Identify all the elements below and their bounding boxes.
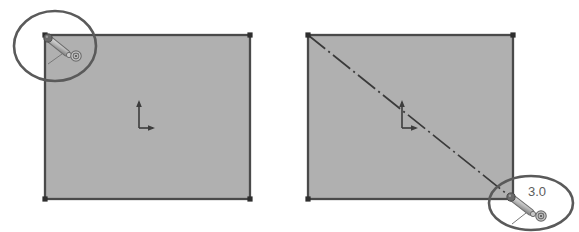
sketch-vertex-bottom-left[interactable]	[305, 196, 310, 201]
sketch-vertex-bottom-right[interactable]	[247, 196, 252, 201]
sketch-vertex-top-right[interactable]	[247, 32, 252, 37]
pin-head-highlight	[509, 195, 511, 197]
pin-tip	[530, 211, 535, 216]
sketch-vertex-bottom-left[interactable]	[42, 196, 47, 201]
coincident-constraint-icon	[536, 211, 546, 221]
pin-head-highlight	[46, 36, 48, 38]
coincident-constraint-icon	[71, 51, 81, 61]
pin-head-sphere	[507, 193, 515, 201]
sketch-vertex-top-right[interactable]	[510, 32, 515, 37]
cad-sketch-figure: 3.0	[0, 0, 579, 232]
sketch-vertex-top-left[interactable]	[305, 32, 310, 37]
figure-canvas: 3.0	[0, 0, 579, 232]
pin-head-sphere	[44, 34, 52, 42]
sketch-view-before	[14, 11, 253, 202]
callout-dimension-label: 3.0	[528, 184, 546, 199]
constraint-icon-center-dot	[75, 55, 77, 57]
constraint-icon-center-dot	[540, 215, 542, 217]
